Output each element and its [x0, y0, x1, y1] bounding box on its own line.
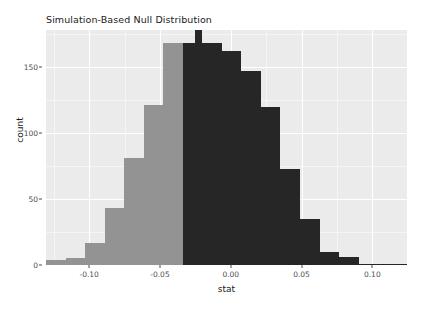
histogram-bar	[163, 43, 183, 265]
x-tick-mark	[301, 265, 302, 268]
histogram-bar	[202, 43, 222, 265]
histogram-bar	[183, 43, 195, 265]
x-tick-mark	[159, 265, 160, 268]
chart-title: Simulation-Based Null Distribution	[46, 14, 212, 25]
y-tick-label: 100	[24, 128, 38, 137]
x-tick-label: 0.05	[293, 270, 310, 279]
histogram-bar	[144, 105, 164, 265]
chart-container: Simulation-Based Null Distribution 05010…	[0, 0, 426, 318]
histogram-bar	[85, 243, 105, 265]
histogram-bars	[46, 30, 407, 265]
histogram-bar	[222, 51, 242, 265]
histogram-bar	[241, 71, 261, 265]
x-tick-label: 0.10	[364, 270, 381, 279]
x-axis-ticks: -0.10-0.050.000.050.10	[46, 265, 407, 281]
y-axis-title: count	[15, 100, 25, 160]
y-tick-label: 0	[33, 261, 38, 270]
x-axis-title: stat	[46, 284, 407, 294]
histogram-bar	[195, 30, 202, 265]
histogram-bar	[300, 219, 320, 265]
y-tick-mark	[39, 66, 42, 67]
y-tick-mark	[39, 198, 42, 199]
y-tick-mark	[39, 265, 42, 266]
histogram-bar	[320, 252, 340, 265]
x-tick-label: -0.05	[150, 270, 169, 279]
y-tick-mark	[39, 132, 42, 133]
plot-panel	[46, 30, 407, 265]
histogram-bar	[105, 208, 125, 265]
histogram-bar	[66, 258, 86, 265]
x-tick-mark	[230, 265, 231, 268]
y-tick-label: 150	[24, 62, 38, 71]
y-tick-label: 50	[28, 194, 38, 203]
histogram-bar	[261, 107, 281, 265]
x-tick-label: 0.00	[222, 270, 239, 279]
x-tick-label: -0.10	[79, 270, 98, 279]
histogram-bar	[339, 257, 359, 265]
histogram-bar	[280, 169, 300, 265]
x-tick-mark	[89, 265, 90, 268]
x-tick-mark	[372, 265, 373, 268]
histogram-bar	[124, 158, 144, 265]
